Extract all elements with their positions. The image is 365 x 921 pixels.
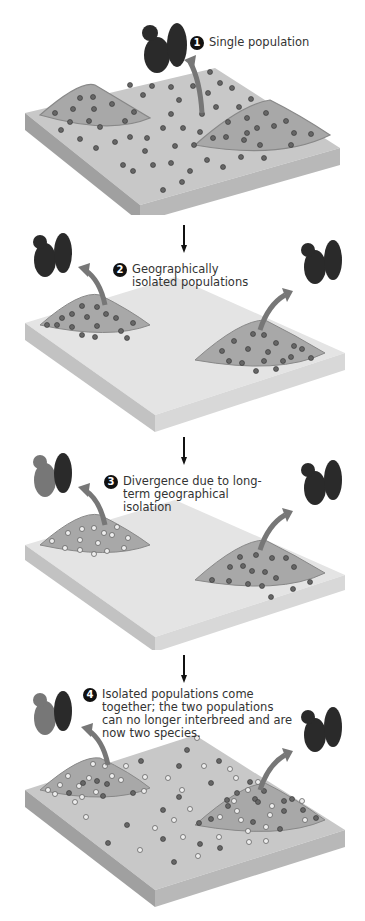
panel-step-4: 4Isolated populations come together; the…: [0, 680, 365, 921]
squirrel-icon: [301, 707, 342, 752]
panel-step-3: 3Divergence due to long-term geographica…: [0, 440, 365, 650]
divergence-landscape: [0, 440, 365, 650]
step-4-label: 4Isolated populations come together; the…: [83, 688, 297, 740]
panel-step-2: 2Geographically isolated populations: [0, 225, 365, 435]
step-number-badge: 3: [104, 475, 118, 489]
isolated-populations-landscape: [0, 225, 365, 435]
step-number-badge: 1: [190, 36, 204, 50]
squirrel-icon: [142, 23, 187, 73]
step-number-badge: 4: [83, 688, 97, 702]
squirrel-icon: [301, 460, 342, 505]
step-3-label: 3Divergence due to long-term geographica…: [104, 475, 273, 514]
step-1-label: 1Single population: [190, 36, 309, 50]
squirrel-icon: [33, 233, 72, 277]
squirrel-icon: [33, 691, 72, 735]
squirrel-icon: [33, 453, 72, 497]
squirrel-icon: [301, 240, 342, 284]
panel-step-1: 1Single population: [0, 0, 365, 215]
single-population-landscape: [0, 0, 365, 215]
step-number-badge: 2: [113, 263, 127, 277]
step-2-label: 2Geographically isolated populations: [113, 263, 257, 289]
